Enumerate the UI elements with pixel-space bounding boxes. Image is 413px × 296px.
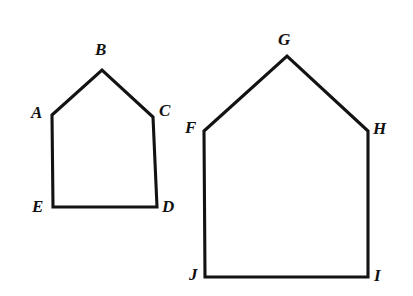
vertex-label-e: E: [32, 198, 43, 215]
vertex-label-a: A: [31, 104, 42, 121]
vertex-label-d: D: [162, 198, 174, 215]
vertex-label-c: C: [159, 102, 170, 119]
vertex-label-b: B: [95, 41, 106, 58]
diagram-figure: A B C D E F G H I J: [0, 0, 413, 296]
pentagon-abcde-outline: [52, 70, 157, 207]
diagram-canvas: [0, 0, 413, 296]
vertex-label-j: J: [189, 266, 198, 283]
vertex-label-g: G: [278, 31, 290, 48]
vertex-label-h: H: [373, 120, 386, 137]
vertex-label-i: I: [374, 267, 381, 284]
pentagon-fghij-outline: [204, 56, 368, 277]
vertex-label-f: F: [185, 119, 196, 136]
